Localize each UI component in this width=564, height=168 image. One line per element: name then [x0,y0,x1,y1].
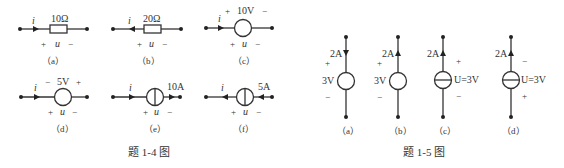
current-label: i [128,15,131,26]
panel-label: （b） [137,56,160,66]
voltage-source-icon [390,73,407,90]
terminal-dot [19,95,23,99]
fig14-panel-c: i + 10V − + u − （c） [204,5,274,66]
voltage-value: U=3V [521,74,547,85]
voltage-value: 3V [322,75,335,86]
plus-sign: + [143,107,148,117]
arrow-left-icon [258,94,264,100]
current-label: i [221,82,224,93]
plus-sign: + [48,107,53,117]
fig14-panel-a: i 10Ω + u − （a） [18,13,89,66]
terminal-dot [179,27,183,31]
terminal-dot [111,27,115,31]
minus-sign: − [167,107,172,117]
plus-sign: + [325,58,330,68]
plus-sign: + [137,39,142,49]
resistor-icon [50,25,67,33]
arrow-right-icon [129,94,135,100]
voltage-value: 5V [57,76,70,87]
current-label: i [218,13,221,24]
arrow-up-icon [508,50,514,56]
voltage-source-icon [235,20,252,37]
voltage-value: 3V [374,75,387,86]
plus-sign: + [456,56,461,66]
minus-sign: − [162,39,167,49]
terminal-dot [344,35,348,39]
current-value: 2A [427,48,440,59]
terminal-dot [270,95,274,99]
current-label: i [34,82,37,93]
arrow-left-icon [129,26,135,32]
arrow-right-icon [34,94,40,100]
voltage-value: 10V [237,5,255,16]
voltage-label: u [243,106,248,117]
minus-sign: − [377,92,382,102]
plus-sign: + [41,39,46,49]
minus-sign: − [256,107,261,117]
voltage-source-icon [55,89,72,106]
minus-sign: − [68,39,73,49]
terminal-dot [270,26,274,30]
current-value: 10A [167,81,185,92]
terminal-dot [441,35,445,39]
current-value: 2A [330,48,343,59]
voltage-label: u [154,106,159,117]
terminal-dot [111,95,115,99]
terminal-dot [441,115,445,119]
fig14-panel-b: i 20Ω + u − （b） [111,13,183,66]
terminal-dot [85,95,89,99]
minus-sign: − [262,6,267,16]
panel-label: （c） [233,56,255,66]
fig14-panel-e: i 10A + u − （e） [111,81,185,134]
resistor-icon [144,25,161,33]
panel-label: （f） [233,124,254,134]
plus-sign: + [230,39,235,49]
fig15-panel-c: 2A + U=3V − （c） [427,35,480,136]
plus-sign: + [231,107,236,117]
figure-caption-1-4: 题 1-4 图 [128,146,170,158]
minus-sign: − [255,39,260,49]
minus-sign: − [45,77,50,87]
voltage-label: u [55,38,60,49]
arrow-right-icon [218,25,224,31]
terminal-dot [204,26,208,30]
panel-label: （e） [144,124,166,134]
voltage-label: u [60,106,65,117]
circuit-figures: i 10Ω + u − （a） i 20Ω + u − （b） i + 10V … [0,0,564,168]
arrow-right-icon [33,26,39,32]
fig14-panel-d: i − 5V + + u − （d） [19,76,89,134]
panel-label: （a） [42,56,64,66]
voltage-label: u [242,38,247,49]
plus-sign: + [76,77,81,87]
minus-sign: − [325,92,330,102]
minus-sign: − [72,107,77,117]
terminal-dot [204,95,208,99]
fig15-panel-d: 2A − U=3V + （d） [495,35,547,136]
plus-sign: + [225,6,230,16]
current-label: i [32,15,35,26]
terminal-dot [396,115,400,119]
panel-label: （a） [337,126,359,136]
panel-label: （d） [51,124,74,134]
current-value: 5A [258,81,271,92]
voltage-label: u [149,38,154,49]
fig15-panel-b: 2A + 3V − （b） [374,35,412,136]
current-label: i [129,82,132,93]
arrow-right-icon [169,94,175,100]
terminal-dot [85,27,89,31]
plus-sign: + [377,58,382,68]
resistance-label: 20Ω [143,13,160,24]
terminal-dot [344,115,348,119]
minus-sign: − [522,56,527,66]
terminal-dot [396,35,400,39]
arrow-up-icon [395,50,401,56]
panel-label: （d） [502,126,525,136]
plus-sign: + [522,91,527,101]
panel-label: （c） [434,126,456,136]
arrow-up-icon [440,50,446,56]
arrow-down-icon [343,50,349,56]
voltage-source-icon [338,73,355,90]
current-value: 2A [495,48,508,59]
terminal-dot [509,115,513,119]
fig14-panel-f: i 5A + u − （f） [204,81,274,134]
